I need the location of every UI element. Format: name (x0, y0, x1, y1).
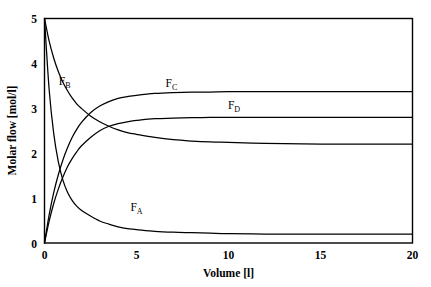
label-f-b: FB (59, 75, 71, 90)
curve-f-c (45, 92, 413, 243)
label-subscript: B (65, 81, 70, 90)
y-tick-label-2: 2 (31, 148, 37, 160)
y-tick-label-0: 0 (31, 238, 37, 250)
x-tick-label-5: 5 (134, 249, 140, 261)
x-tick-label-10: 10 (223, 249, 235, 261)
y-tick-label-3: 3 (31, 103, 37, 115)
x-tick-label-0: 0 (42, 249, 48, 261)
x-tick-label-20: 20 (407, 249, 419, 261)
y-axis-tick-labels: 5 4 3 2 1 0 (31, 13, 37, 250)
curve-f-a (45, 19, 413, 235)
x-tick-label-15: 15 (315, 249, 327, 261)
y-tick-label-4: 4 (31, 58, 37, 70)
x-axis-title: Volume [l] (203, 267, 254, 279)
label-subscript: A (137, 207, 143, 216)
y-tick-label-5: 5 (31, 13, 37, 25)
chart-figure: 5 4 3 2 1 0 0 5 10 15 20 Volume [l] Mola… (0, 0, 431, 287)
label-subscript: C (172, 83, 177, 92)
y-tick-label-1: 1 (31, 193, 37, 205)
curve-annotations: FAFBFCFD (59, 75, 240, 216)
line-chart: 5 4 3 2 1 0 0 5 10 15 20 Volume [l] Mola… (0, 0, 431, 287)
label-f-c: FC (166, 77, 178, 92)
label-subscript: D (234, 105, 240, 114)
data-curves (45, 19, 413, 244)
x-axis-tick-labels: 0 5 10 15 20 (42, 249, 419, 261)
curve-f-b (45, 19, 413, 145)
y-axis-title: Molar flow [mol/l] (6, 86, 18, 176)
label-f-a: FA (130, 201, 142, 216)
curve-f-d (45, 117, 413, 243)
label-f-d: FD (228, 99, 240, 114)
